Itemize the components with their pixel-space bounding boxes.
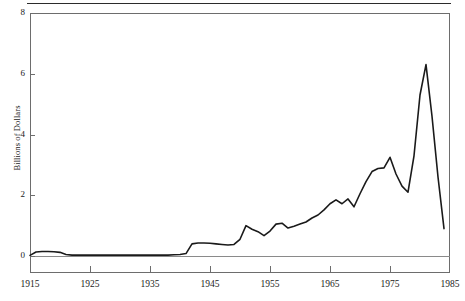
series-layer: [0, 0, 465, 301]
chart-figure: Billions of Dollars 02468 19151925193519…: [0, 0, 465, 301]
data-line-billions-of-dollars: [30, 65, 444, 256]
